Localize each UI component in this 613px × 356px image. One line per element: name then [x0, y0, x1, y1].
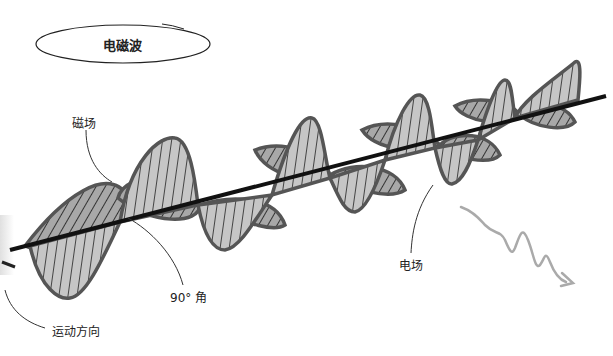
electric-field-leader	[411, 185, 433, 253]
axis-stub	[2, 262, 15, 267]
page-title: 电磁波	[103, 35, 142, 54]
electric-field-lobes	[30, 62, 580, 299]
angle-label: 90° 角	[170, 288, 207, 305]
angle-leader	[128, 218, 183, 285]
magnetic-field-leader	[86, 130, 112, 182]
electromagnetic-wave-diagram	[0, 0, 613, 356]
wavy-arrow-icon	[461, 207, 573, 286]
magnetic-field-label: 磁场	[72, 114, 96, 131]
electric-field-label: 电场	[399, 256, 423, 273]
direction-label: 运动方向	[52, 322, 100, 339]
direction-leader	[5, 290, 45, 328]
